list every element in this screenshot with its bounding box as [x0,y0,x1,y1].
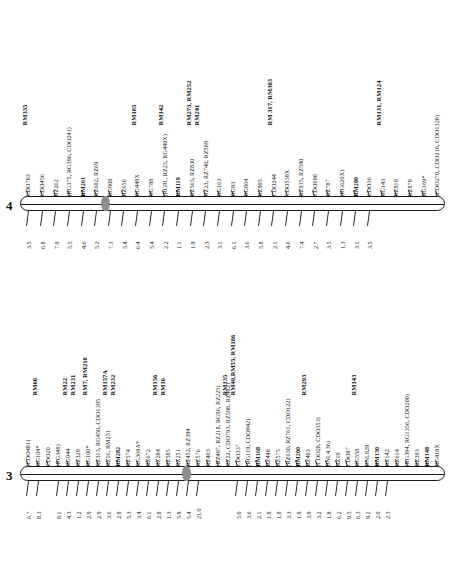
interval-tick [26,481,29,496]
chromosome-4-axis [21,204,444,205]
interval-tick [56,481,59,496]
marker-label: RM119 [176,177,183,196]
interval-distance: 1.8 [296,511,302,519]
marker-label: RG558 [355,448,362,466]
interval-distance: 7.4 [299,241,305,249]
interval-distance: 3.1 [217,241,223,249]
marker-label: RG788 [148,178,155,196]
interval-tick [53,211,56,226]
marker-label: RG104* [36,445,43,466]
marker-label: CDO337 [235,444,242,467]
interval-distance: 4.6 [81,241,87,249]
interval-distance: 1.3 [166,511,172,519]
marker-label: RZ313, RG450, CDO1395 [96,399,103,467]
interval-tick [255,481,258,496]
marker-label: RZ576 [195,449,202,466]
interval-distance: 3.5 [326,241,332,249]
interval-tick [203,211,206,226]
marker-label: RZ787 [326,179,333,196]
interval-tick [325,481,328,496]
interval-distance: 7.9 [54,241,60,249]
interval-tick [81,211,84,226]
interval-distance: 5.4 [122,241,128,249]
interval-tick [385,481,388,496]
marker-label: RZ574 [125,449,132,466]
rm-marker-label: RM135 [221,375,229,396]
marker-label: RG418X [435,444,442,467]
marker-label: (RZ497, RZ218, RG96, RZ225) [215,385,222,466]
interval-distance: 5.2 [94,241,100,249]
marker-label: (RG394, RG1356, CDO200) [405,394,412,467]
interval-tick [299,211,302,226]
marker-label: RM130 [375,447,382,467]
interval-tick [76,481,79,496]
interval-distance: 4.3 [66,511,72,519]
interval-distance: 3.5 [367,241,373,249]
interval-distance: 2.3 [204,241,210,249]
interval-tick [196,481,199,496]
chromosome-4-centromere [101,196,110,211]
marker-label: (RZ630, RZ761, CDO122) [285,398,292,466]
interval-tick [126,481,129,496]
interval-tick [176,211,179,226]
rm-marker-label: RM49,RM55, RM186 [229,335,237,396]
marker-label: RG944 [66,448,73,466]
interval-distance: 5.0 [236,511,242,519]
marker-label: RM261 [80,177,87,197]
marker-label: RZ614 [395,449,402,466]
interval-distance: 3.1 [354,241,360,249]
rm-marker-label: RM7, RM218 [81,357,89,395]
interval-distance: 5.5 [67,241,73,249]
marker-label: RZ393 [415,449,422,466]
interval-distance: 1.1 [176,241,182,249]
marker-label: RG369A* [135,441,142,467]
interval-distance: 8.1 [56,511,62,519]
rm-marker-label: RM231 [69,375,77,396]
interval-tick [94,211,97,226]
interval-distance: 3.6 [106,511,112,519]
marker-label: RM280 [353,177,360,197]
chromosome-4-bar [20,196,445,211]
marker-label: RZ905 [257,179,264,196]
interval-distance: 2.9 [86,511,92,519]
marker-label: RZ251 [175,449,182,466]
marker-label: CDO20 [46,447,53,466]
interval-distance: 5.8 [258,241,264,249]
marker-label: (RG91, RZ23, RG449X) [162,134,169,197]
marker-label: RZ452, RZ394 [185,428,192,466]
interval-tick [305,481,308,496]
rm-marker-label: RM 317, RM303 [267,79,275,126]
marker-label: BNL4.36) [325,441,332,467]
rm-marker-label: RM156 [151,375,159,396]
interval-tick [295,481,298,496]
interval-distance: 2.7 [313,241,319,249]
interval-distance: 2.1 [272,241,278,249]
interval-distance: 3.5 [26,241,32,249]
interval-distance: 21.0 [196,508,202,519]
marker-label: RM200 [295,447,302,467]
interval-tick [190,211,193,226]
marker-label: CDO456 [39,174,46,197]
interval-tick [285,211,288,226]
marker-label: CDO244 [271,174,278,197]
marker-label: RZ448 [265,449,272,466]
interval-distance: 2.3 [385,511,391,519]
chromosome-3-centromere [182,466,191,481]
interval-tick [365,481,368,496]
marker-label: RG449X [135,174,142,197]
marker-label: CDO539X [285,169,292,196]
marker-label: RZ575 [275,449,282,466]
interval-distance: 1.8 [276,511,282,519]
marker-label: RZ403 [205,449,212,466]
chromosome-3-label: 3 [6,468,13,484]
interval-distance: 2.9 [96,511,102,519]
interval-distance: 2.8 [156,511,162,519]
interval-distance: 6.1 [146,511,152,519]
rm-marker-label: RM293 [301,375,309,396]
interval-tick [186,481,189,496]
interval-tick [96,481,99,496]
interval-tick [86,481,89,496]
rm-marker-label: RM241 [193,105,201,126]
chromosome-3-panel: 3 (CDO481)6.7RG104*8.3CDO20(RG348)8.1RG9… [0,290,459,581]
marker-label: RZ656 [121,179,128,196]
